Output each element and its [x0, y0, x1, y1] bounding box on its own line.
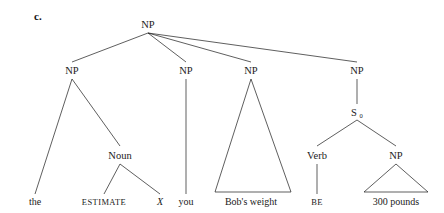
node-np-2: NP	[179, 65, 193, 76]
triangle-bobs-weight	[215, 79, 291, 192]
branch-np1-to-noun	[72, 79, 120, 146]
branch-root-to-np4	[148, 33, 357, 62]
figure-canvas: c. NP NP NP NP NP Noun S 0	[0, 0, 444, 213]
branch-noun-to-estimate	[104, 164, 120, 194]
terminal-be: BE	[311, 197, 323, 207]
terminal-x: X	[156, 196, 164, 207]
terminal-the: the	[29, 196, 42, 207]
node-np-4: NP	[350, 65, 364, 76]
terminal-estimate: ESTIMATE	[82, 197, 126, 207]
node-np-3: NP	[244, 65, 258, 76]
branch-root-to-np1	[72, 33, 148, 62]
node-np-1: NP	[65, 65, 79, 76]
branch-np1-to-the	[35, 79, 72, 194]
triangle-300-pounds	[364, 164, 428, 192]
terminal-bobs-weight: Bob's weight	[225, 196, 277, 207]
terminal-you: you	[179, 196, 194, 207]
node-verb: Verb	[307, 150, 327, 161]
item-letter: c.	[34, 10, 42, 22]
node-s0-subscript: 0	[359, 112, 362, 119]
terminal-300-pounds: 300 pounds	[373, 196, 420, 207]
branch-noun-to-x	[120, 164, 160, 194]
node-s0: S	[351, 107, 357, 118]
branch-root-to-np3	[148, 33, 251, 62]
node-root-np: NP	[141, 19, 155, 30]
node-np-5: NP	[389, 150, 403, 161]
node-noun: Noun	[108, 150, 132, 161]
syntax-tree-diagram: c. NP NP NP NP NP Noun S 0	[0, 0, 444, 213]
branch-s0-to-verb	[317, 120, 357, 146]
branch-s0-to-np5	[357, 120, 396, 146]
